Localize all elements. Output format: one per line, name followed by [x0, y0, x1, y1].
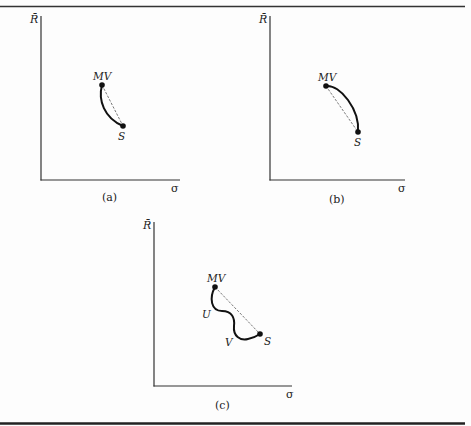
- x-axis-label: σ: [398, 182, 406, 195]
- x-axis-label: σ: [171, 182, 179, 195]
- frontier-curve: [101, 85, 123, 126]
- y-axis-label: R̄: [142, 219, 151, 232]
- panel-c: R̄ σ (c) MV S U V: [142, 219, 294, 412]
- y-axis-label: R̄: [29, 13, 38, 26]
- point-mv-label: MV: [317, 71, 338, 83]
- panel-a: R̄ σ (a) MV S: [29, 13, 180, 204]
- point-mv-label: MV: [92, 70, 113, 82]
- panel-b: R̄ σ (b) MV S: [258, 13, 406, 206]
- point-mv: [212, 284, 218, 290]
- point-s: [120, 123, 126, 129]
- point-s-label: S: [264, 335, 271, 347]
- point-mv: [99, 82, 105, 88]
- point-s-label: S: [118, 130, 125, 142]
- point-s: [257, 331, 263, 337]
- curve-label-v: V: [225, 336, 234, 348]
- frontier-curve: [212, 287, 260, 339]
- point-s: [355, 129, 361, 135]
- point-mv-label: MV: [206, 272, 227, 284]
- curve-label-u: U: [202, 308, 212, 320]
- point-s-label: S: [354, 136, 361, 148]
- y-axis-label: R̄: [258, 13, 267, 26]
- point-mv: [323, 83, 329, 89]
- x-axis-label: σ: [286, 388, 294, 401]
- figure-canvas: R̄ σ (a) MV S R̄ σ (b) MV S R̄ σ (c) MV …: [0, 0, 471, 426]
- panel-caption: (c): [215, 399, 230, 412]
- panel-caption: (b): [329, 193, 345, 206]
- panel-caption: (a): [102, 191, 117, 204]
